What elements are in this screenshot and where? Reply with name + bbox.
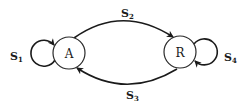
- edge-s2-a-to-r: [74, 21, 173, 38]
- edge-s1-self-loop: [31, 40, 55, 66]
- edge-label-s1: S1: [10, 50, 23, 64]
- state-label-r: R: [175, 46, 185, 60]
- state-label-a: A: [64, 47, 74, 61]
- edge-s3-r-to-a: [77, 68, 177, 84]
- edge-label-s2: S2: [121, 7, 134, 21]
- state-node-a: A: [53, 37, 85, 69]
- edge-s4-self-loop: [194, 39, 217, 65]
- state-diagram: A R S1 S2 S3 S4: [0, 0, 247, 106]
- state-node-r: R: [164, 36, 196, 68]
- edge-label-s4: S4: [224, 51, 237, 65]
- edge-label-s3: S3: [126, 89, 139, 103]
